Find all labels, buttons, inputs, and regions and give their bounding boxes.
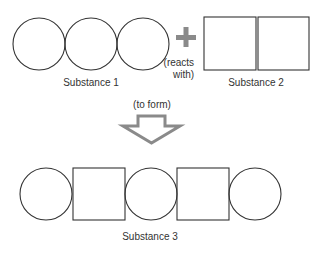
substance-3-molecule <box>20 168 281 220</box>
substance-1-molecule <box>13 18 169 70</box>
reacts-with-caption-line-2: with) <box>163 69 194 81</box>
substance-2-square-1 <box>204 17 256 70</box>
reaction-diagram <box>0 0 323 253</box>
substance-3-circle-1 <box>20 168 72 220</box>
down-arrow-icon <box>123 116 180 143</box>
substance-2-label: Substance 2 <box>228 77 284 88</box>
reacts-with-caption-line-1: (reacts <box>163 57 194 69</box>
substance-2-molecule <box>204 17 309 70</box>
substance-3-square-2 <box>177 168 229 220</box>
substance-1-circle-2 <box>65 18 117 70</box>
substance-1-circle-3 <box>117 18 169 70</box>
to-form-caption: (to form) <box>133 99 171 110</box>
substance-3-square-1 <box>73 168 125 220</box>
substance-3-label: Substance 3 <box>122 231 178 242</box>
substance-2-square-2 <box>258 17 309 70</box>
substance-1-label: Substance 1 <box>63 77 119 88</box>
reacts-with-caption: (reacts with) <box>163 57 194 81</box>
plus-icon <box>176 27 196 47</box>
substance-3-circle-2 <box>125 168 177 220</box>
substance-1-circle-1 <box>13 18 65 70</box>
substance-3-circle-3 <box>229 168 281 220</box>
